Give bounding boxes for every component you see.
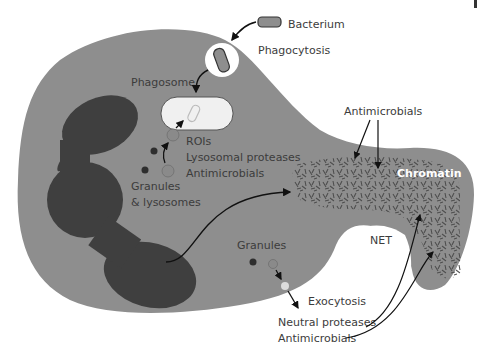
label-lysosomal-proteases: Lysosomal proteases bbox=[186, 151, 301, 164]
arrow-granule-exocytosis-2 bbox=[288, 291, 298, 308]
label-bacterium: Bacterium bbox=[288, 18, 345, 31]
phagosome bbox=[161, 97, 233, 130]
label-net: NET bbox=[370, 234, 392, 247]
neutrophil-diagram: Bacterium Phagocytosis Phagosome ROIs Ly… bbox=[0, 0, 490, 355]
granule-fusing bbox=[167, 129, 179, 141]
corner-mark bbox=[474, 0, 477, 8]
label-granules-lysosomes-2: & lysosomes bbox=[131, 196, 201, 209]
granule-mid-2 bbox=[269, 260, 278, 269]
label-granules-lysosomes-1: Granules bbox=[131, 180, 181, 193]
arrow-bacterium-to-cell bbox=[232, 22, 256, 40]
granule-mid bbox=[162, 165, 174, 177]
label-antimicrobials-phagosome: Antimicrobials bbox=[186, 167, 265, 180]
label-granules: Granules bbox=[237, 239, 287, 252]
granule-dark-2 bbox=[142, 167, 149, 174]
granule-light bbox=[281, 282, 289, 290]
granule-dark-1 bbox=[151, 148, 158, 155]
label-exocytosis: Exocytosis bbox=[308, 295, 366, 308]
bacterium-icon bbox=[258, 17, 281, 27]
label-rois: ROIs bbox=[186, 135, 212, 148]
label-neutral-proteases: Neutral proteases bbox=[278, 316, 376, 329]
label-antimicrobials-net: Antimicrobials bbox=[344, 105, 423, 118]
granule-dark-3 bbox=[250, 259, 257, 266]
label-phagosome: Phagosome bbox=[131, 76, 195, 89]
label-chromatin: Chromatin bbox=[397, 167, 462, 180]
label-phagocytosis: Phagocytosis bbox=[258, 44, 330, 57]
label-antimicrobials-exocytosis: Antimicrobials bbox=[278, 332, 357, 345]
